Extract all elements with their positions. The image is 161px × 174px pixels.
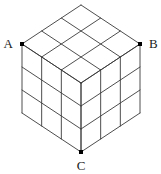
left-face-diagonal-0 bbox=[22, 44, 81, 83]
top-face-gridline-l3 bbox=[81, 5, 140, 44]
left-face-diagonal-2 bbox=[22, 90, 81, 129]
right-face-diagonal-2 bbox=[81, 90, 140, 129]
vertex-marker-b bbox=[138, 42, 142, 46]
figure-container: ABC bbox=[0, 0, 161, 174]
top-face-gridline-l2 bbox=[61, 18, 120, 57]
vertex-label-b: B bbox=[149, 36, 158, 51]
top-face-gridline-r1 bbox=[61, 31, 120, 70]
right-face-diagonal-0 bbox=[81, 44, 140, 83]
cube-wireframe bbox=[22, 5, 140, 152]
vertex-marker-a bbox=[20, 42, 24, 46]
vertex-marker-c bbox=[79, 150, 83, 154]
vertex-label-c: C bbox=[77, 158, 86, 173]
top-face-gridline-r2 bbox=[42, 18, 101, 57]
vertex-label-a: A bbox=[4, 36, 14, 51]
top-face-gridline-r3 bbox=[22, 5, 81, 44]
cube-diagram: ABC bbox=[0, 0, 161, 174]
right-face-diagonal-3 bbox=[81, 113, 140, 152]
right-face-diagonal-1 bbox=[81, 67, 140, 106]
left-face-diagonal-3 bbox=[22, 113, 81, 152]
top-face-gridline-l1 bbox=[42, 31, 101, 70]
left-face-diagonal-1 bbox=[22, 67, 81, 106]
